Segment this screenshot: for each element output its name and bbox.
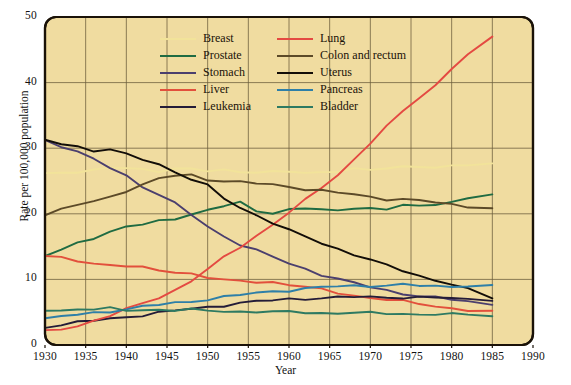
x-tick-label: 1970: [350, 350, 390, 362]
legend-label: Lung: [320, 31, 345, 46]
legend-swatch-icon: [277, 55, 313, 57]
legend-item-prostate[interactable]: Prostate: [160, 48, 251, 63]
legend-item-breast[interactable]: Breast: [160, 31, 251, 46]
x-tick-label: 1940: [106, 350, 146, 362]
legend-item-lung[interactable]: Lung: [277, 31, 406, 46]
legend-label: Pancreas: [320, 82, 363, 97]
legend-item-liver[interactable]: Liver: [160, 82, 251, 97]
legend-item-uterus[interactable]: Uterus: [277, 65, 406, 80]
x-tick-label: 1960: [269, 350, 309, 362]
x-tick-label: 1980: [432, 350, 472, 362]
legend-swatch-icon: [277, 89, 313, 91]
x-tick-label: 1945: [147, 350, 187, 362]
y-tick-label: 20: [11, 206, 37, 218]
legend-label: Liver: [203, 82, 229, 97]
legend-swatch-icon: [160, 38, 196, 40]
legend-label: Leukemia: [203, 99, 251, 114]
x-tick-label: 1990: [513, 350, 553, 362]
legend-item-leukemia[interactable]: Leukemia: [160, 99, 251, 114]
legend-label: Prostate: [203, 48, 242, 63]
legend-label: Bladder: [320, 99, 358, 114]
x-axis-label: Year: [0, 364, 571, 376]
legend-item-colon-and-rectum[interactable]: Colon and rectum: [277, 48, 406, 63]
legend-swatch-icon: [277, 72, 313, 74]
legend-item-bladder[interactable]: Bladder: [277, 99, 406, 114]
x-tick-label: 1975: [391, 350, 431, 362]
x-tick-label: 1955: [228, 350, 268, 362]
legend-label: Uterus: [320, 65, 352, 80]
legend-swatch-icon: [277, 106, 313, 108]
legend-label: Stomach: [203, 65, 245, 80]
chart-legend: BreastLungProstateColon and rectumStomac…: [160, 31, 406, 114]
legend-label: Breast: [203, 31, 234, 46]
y-tick-label: 50: [11, 9, 37, 21]
y-tick-label: 0: [11, 337, 37, 349]
legend-swatch-icon: [160, 89, 196, 91]
x-tick-label: 1985: [472, 350, 512, 362]
y-tick-label: 10: [11, 271, 37, 283]
x-tick-label: 1965: [310, 350, 350, 362]
x-tick-label: 1930: [25, 350, 65, 362]
legend-item-stomach[interactable]: Stomach: [160, 65, 251, 80]
y-axis-label: Rate per 100,000 population: [18, 66, 30, 246]
legend-swatch-icon: [160, 106, 196, 108]
x-tick-label: 1935: [66, 350, 106, 362]
legend-label: Colon and rectum: [320, 48, 406, 63]
cancer-death-rate-chart: Rate per 100,000 population Year 0102030…: [0, 0, 571, 385]
legend-swatch-icon: [160, 55, 196, 57]
legend-swatch-icon: [277, 38, 313, 40]
x-tick-label: 1950: [188, 350, 228, 362]
y-tick-label: 40: [11, 75, 37, 87]
legend-swatch-icon: [160, 72, 196, 74]
legend-item-pancreas[interactable]: Pancreas: [277, 82, 406, 97]
y-tick-label: 30: [11, 140, 37, 152]
